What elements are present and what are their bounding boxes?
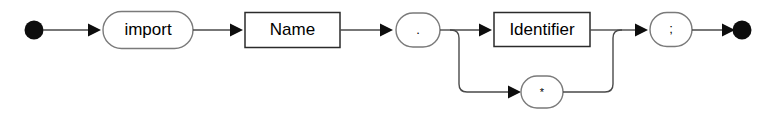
start-dot bbox=[25, 21, 44, 40]
arrow-icon-into-identifier bbox=[479, 24, 492, 37]
railroad-diagram: import Name . Identifier bbox=[0, 0, 773, 118]
arrow-icon-into-import bbox=[88, 24, 101, 37]
node-name-label: Name bbox=[270, 20, 315, 39]
arrow-icon-into-name bbox=[230, 24, 243, 37]
node-name: Name bbox=[245, 13, 340, 48]
node-import-label: import bbox=[124, 20, 172, 39]
arrow-icon-into-star bbox=[508, 86, 521, 99]
end-dot bbox=[733, 21, 752, 40]
node-dot: . bbox=[396, 13, 440, 47]
node-star-label: * bbox=[540, 86, 545, 98]
node-identifier-label: Identifier bbox=[509, 20, 575, 39]
railroad-canvas: import Name . Identifier bbox=[0, 0, 773, 118]
node-semicolon-label: ; bbox=[669, 21, 673, 36]
node-star: * bbox=[521, 76, 563, 108]
arrow-icon-into-dot bbox=[380, 24, 393, 37]
node-identifier: Identifier bbox=[494, 13, 590, 47]
node-dot-label: . bbox=[416, 22, 420, 37]
node-semicolon: ; bbox=[650, 13, 692, 47]
arrow-icon-into-semicolon bbox=[635, 24, 648, 37]
node-import: import bbox=[103, 12, 193, 49]
